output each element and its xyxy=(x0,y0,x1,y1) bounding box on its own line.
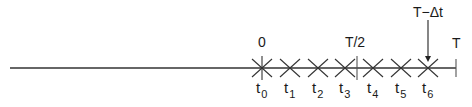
time-point-labels: t0t1t2t3t4t5t6 xyxy=(256,79,433,100)
period-end-label: T xyxy=(452,35,461,51)
half-period-label: T/2 xyxy=(345,34,365,50)
last-step-label: T−Δt xyxy=(413,4,443,20)
time-axis-diagram: 0 T/2 T T−Δt t0t1t2t3t4t5t6 xyxy=(0,0,472,107)
time-point-label-6: t6 xyxy=(422,79,433,100)
time-point-label-5: t5 xyxy=(395,79,406,100)
down-arrow-icon xyxy=(425,20,431,62)
time-point-label-2: t2 xyxy=(312,79,323,100)
time-point-label-3: t3 xyxy=(339,79,350,100)
time-point-label-0: t0 xyxy=(256,79,267,100)
origin-label: 0 xyxy=(258,34,266,50)
time-point-label-1: t1 xyxy=(284,79,295,100)
axis-labels: 0 T/2 T T−Δt xyxy=(258,4,461,51)
time-point-label-4: t4 xyxy=(367,79,378,100)
